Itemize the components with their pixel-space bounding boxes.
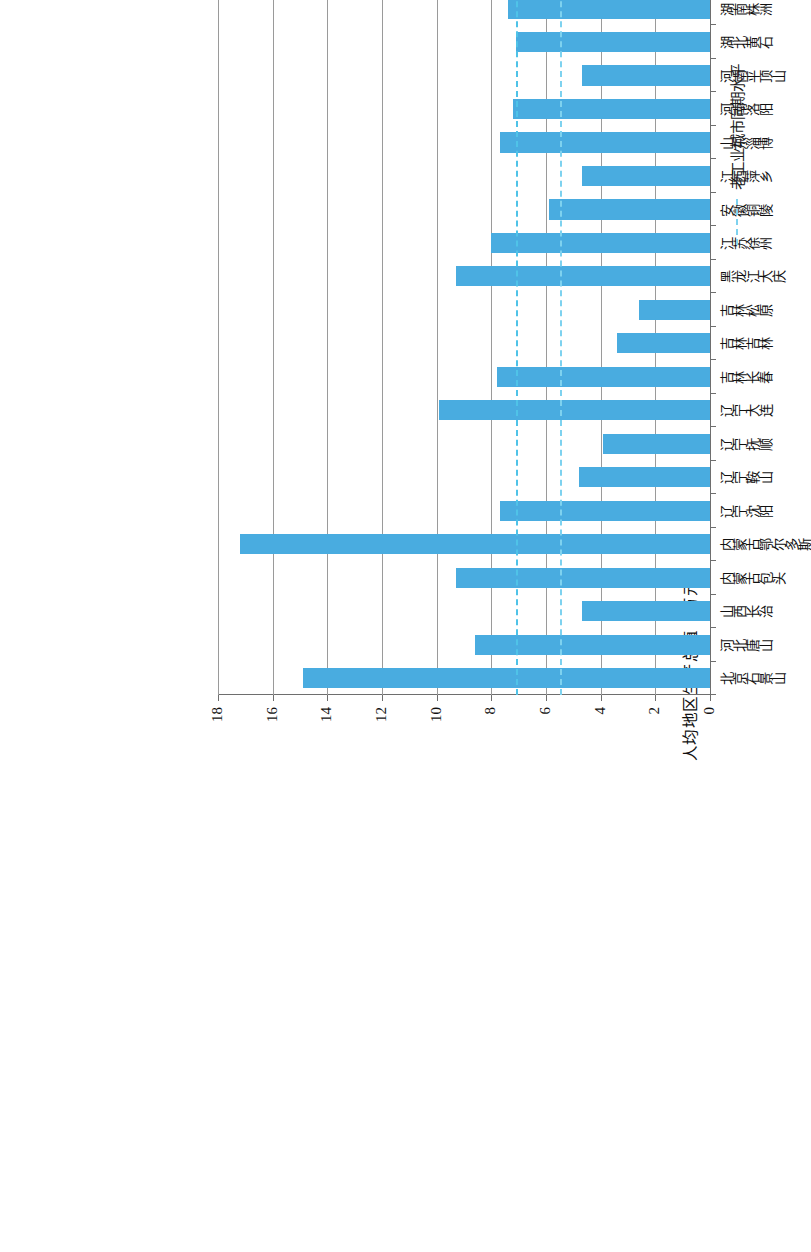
category-axis-tick [710,426,716,427]
value-axis-tick-label: 16 [264,707,281,741]
value-axis-tick-label: 0 [701,707,718,741]
bar [500,132,710,152]
bar [240,534,710,554]
category-axis-tick [710,460,716,461]
value-axis-tick [710,695,711,701]
category-axis-tick [710,292,716,293]
value-axis-tick-label: 12 [373,707,390,741]
bar [491,233,710,253]
value-axis-tick [601,695,602,701]
legend-item[interactable]: 老工业城市同期水平 [726,64,747,245]
category-axis-tick [710,493,716,494]
value-axis-tick [437,695,438,701]
plot-area: 024681012141618北京石景山河北唐山山西长治内蒙古包头内蒙古鄂尔多斯… [218,0,710,695]
bar [579,467,710,487]
value-axis-tick-label: 10 [428,707,445,741]
category-axis-tick [710,694,716,695]
bar [439,400,710,420]
value-axis-tick-label: 2 [646,707,663,741]
bar [582,601,710,621]
category-axis-tick [710,259,716,260]
bar [475,635,710,655]
gridline [437,0,438,695]
value-axis-tick-label: 8 [482,707,499,741]
category-axis-tick [710,594,716,595]
value-axis-tick-label: 6 [537,707,554,741]
category-axis-tick [710,527,716,528]
bar [456,568,710,588]
value-axis-tick-label: 4 [592,707,609,741]
bar [617,333,710,353]
category-axis-tick [710,158,716,159]
bar [603,434,710,454]
value-axis-tick [491,695,492,701]
category-axis-tick [710,359,716,360]
legend-label: 老工业城市同期水平 [726,64,747,190]
category-axis-tick [710,393,716,394]
bar [582,166,710,186]
gridline [491,0,492,695]
chart-figure: 人均地区生产总值（万元） 024681012141618北京石景山河北唐山山西长… [0,0,767,767]
bar [500,501,710,521]
value-axis-tick-label: 18 [209,707,226,741]
chart-legend: 人均地区生产总值全国同期水平老工业城市同期水平 [726,0,766,695]
value-axis-tick [218,695,219,701]
value-axis-tick-label: 14 [318,707,335,741]
rotated-figure-wrapper: 人均地区生产总值（万元） 024681012141618北京石景山河北唐山山西长… [0,0,767,767]
category-axis-tick [710,91,716,92]
bar [639,300,710,320]
bar [456,266,710,286]
bar [582,65,710,85]
category-axis-tick [710,24,716,25]
gridline [218,0,219,695]
reference-line-national [516,0,518,695]
category-axis-line [710,0,711,695]
value-axis-tick [546,695,547,701]
category-axis-tick [710,560,716,561]
bar [497,367,710,387]
bar [516,32,710,52]
category-axis-tick [710,192,716,193]
category-axis-tick [710,125,716,126]
value-axis-tick [327,695,328,701]
category-axis-tick [710,326,716,327]
reference-line-old-industrial [560,0,562,695]
value-axis-tick [273,695,274,701]
bar [513,99,710,119]
gridline [273,0,274,695]
category-axis-tick [710,627,716,628]
bar [303,668,710,688]
category-axis-tick [710,58,716,59]
value-axis-tick [382,695,383,701]
category-axis-tick [710,225,716,226]
category-axis-tick [710,661,716,662]
gridline [382,0,383,695]
value-axis-tick [655,695,656,701]
gridline [327,0,328,695]
bar [508,0,710,19]
bar [549,199,710,219]
legend-dash-dot-line-icon [736,199,738,245]
